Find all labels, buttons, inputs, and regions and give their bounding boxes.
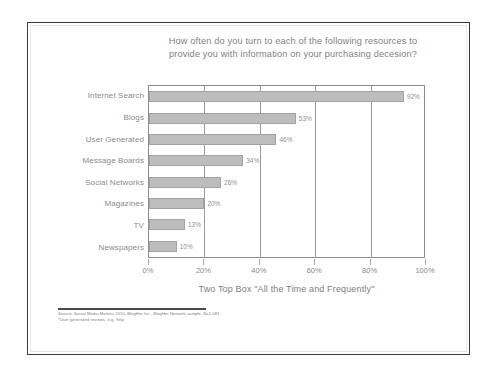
x-tick-label-60: 60%: [307, 266, 322, 275]
bar-value-social-networks: 26%: [224, 177, 237, 188]
bar-value-newspapers: 10%: [180, 241, 193, 252]
x-tick-label-20: 20%: [196, 266, 211, 275]
tick-mark-0: [148, 259, 149, 265]
plot-area: 92% 53% 46% 34% 26% 20% 13% 10%: [148, 85, 425, 258]
bar-row: 92%: [149, 91, 424, 102]
tick-mark-60: [314, 259, 315, 265]
category-label-newspapers: Newspapers: [58, 242, 144, 253]
category-axis-labels: Internet Search Blogs User Generated Mes…: [58, 85, 144, 258]
bar-value-magazines: 20%: [207, 198, 220, 209]
category-label-magazines: Magazines: [58, 198, 144, 209]
x-tick-label-100: 100%: [415, 266, 434, 275]
bar-row: 26%: [149, 177, 424, 188]
bar-row: 46%: [149, 134, 424, 145]
bar-row: 34%: [149, 155, 424, 166]
x-axis-tick-labels: 0% 20% 40% 60% 80% 100%: [148, 266, 425, 278]
category-label-blogs: Blogs: [58, 112, 144, 123]
category-label-user-generated: User Generated: [58, 134, 144, 145]
bar-row: 20%: [149, 198, 424, 209]
bar-message-boards: [149, 155, 243, 166]
tick-mark-20: [203, 259, 204, 265]
tick-mark-100: [425, 259, 426, 265]
footnote-divider: [58, 308, 206, 310]
bar-blogs: [149, 113, 296, 124]
footnote: Source: Social Media Matters 2010, BlogH…: [58, 311, 338, 323]
bar-value-user-generated: 46%: [279, 134, 292, 145]
bar-social-networks: [149, 177, 221, 188]
chart-title-line-1: How often do you turn to each of the fol…: [148, 35, 438, 48]
category-label-tv: TV: [58, 220, 144, 231]
bar-row: 53%: [149, 113, 424, 124]
bar-row: 10%: [149, 241, 424, 252]
bar-tv: [149, 219, 185, 230]
x-tick-label-40: 40%: [251, 266, 266, 275]
category-label-social-networks: Social Networks: [58, 177, 144, 188]
bar-value-blogs: 53%: [299, 113, 312, 124]
bar-newspapers: [149, 241, 177, 252]
x-axis-title: Two Top Box "All the Time and Frequently…: [148, 284, 425, 294]
x-tick-label-0: 0%: [143, 266, 154, 275]
x-tick-label-80: 80%: [362, 266, 377, 275]
chart-title: How often do you turn to each of the fol…: [148, 35, 438, 61]
bar-value-message-boards: 34%: [246, 155, 259, 166]
bar-user-generated: [149, 134, 276, 145]
chart-title-line-2: provide you with information on your pur…: [148, 48, 438, 61]
bar-series: 92% 53% 46% 34% 26% 20% 13% 10%: [149, 86, 424, 257]
bar-row: 13%: [149, 219, 424, 230]
bar-magazines: [149, 198, 204, 209]
bar-value-tv: 13%: [188, 219, 201, 230]
bar-internet-search: [149, 91, 404, 102]
footnote-note-line: *User generated reviews, e.g. Yelp: [58, 317, 338, 323]
category-label-message-boards: Message Boards: [58, 155, 144, 166]
category-label-internet-search: Internet Search: [58, 90, 144, 101]
tick-mark-40: [259, 259, 260, 265]
tick-mark-80: [370, 259, 371, 265]
bar-value-internet-search: 92%: [407, 91, 420, 102]
